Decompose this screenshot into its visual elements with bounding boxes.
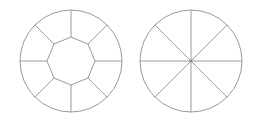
spoke-line bbox=[88, 78, 107, 97]
diagram-canvas bbox=[0, 0, 263, 124]
circle-eight-sectors-figure bbox=[140, 10, 242, 112]
center-point bbox=[190, 60, 192, 62]
inner-octagon bbox=[47, 37, 95, 85]
spoke-line bbox=[88, 25, 107, 44]
spoke-line bbox=[35, 25, 54, 44]
ring-with-octagon-figure bbox=[20, 10, 122, 112]
spoke-line bbox=[35, 78, 54, 97]
